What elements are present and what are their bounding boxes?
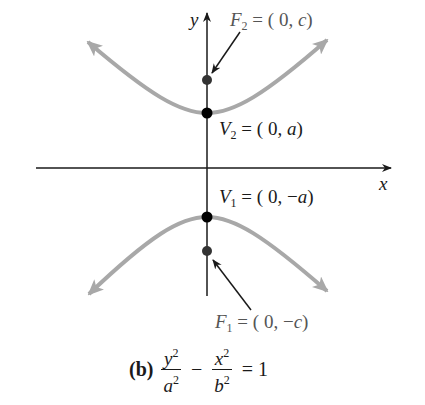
vertex-v1-label: V1 = ( 0, −a) [219,187,313,209]
term2-denominator: b [214,375,224,396]
f1-text: = ( 0, − [233,311,294,332]
fraction-x2-b2: x2 b2 [212,343,232,396]
v2-text: = ( 0, [237,118,287,139]
f1-name: F [215,311,227,332]
upper-branch-left [88,42,207,113]
focus-f2-point [202,75,212,85]
upper-branch-right [207,40,327,113]
v1-text: = ( 0, − [237,186,298,207]
v1-coord: a [298,186,308,207]
term2-den-exp: 2 [224,373,230,387]
minus-sign: − [191,358,202,381]
f2-close: ) [306,9,312,30]
equation-caption: (b) y2 a2 − x2 b2 = 1 [129,344,274,394]
f1-pointer-arrow [213,260,251,310]
part-label: (b) [129,358,153,381]
v1-close: ) [307,186,313,207]
f2-pointer-arrow [212,32,240,73]
lower-branch-right [207,217,327,291]
v2-coord: a [287,118,297,139]
term2-numerator: x [215,348,223,369]
term1-denominator: a [163,375,173,396]
fraction-y2-a2: y2 a2 [161,343,181,396]
f1-coord: c [294,311,302,332]
vertex-v2-label: V2 = ( 0, a) [219,119,303,141]
x-axis-label: x [379,174,387,193]
lower-branch-left [89,217,207,294]
v2-close: ) [296,118,302,139]
equals-one: = 1 [242,358,268,381]
focus-f2-label: F2 = ( 0, c) [230,10,313,32]
vertex-v1-point [202,212,213,223]
term2-num-exp: 2 [223,346,229,360]
f2-text: = ( 0, [248,9,298,30]
term1-den-exp: 2 [173,373,179,387]
v2-name: V [219,118,231,139]
focus-f1-point [202,246,212,256]
f1-close: ) [302,311,308,332]
vertex-v2-point [202,108,213,119]
term1-num-exp: 2 [172,346,178,360]
y-axis-label: y [190,10,198,29]
f2-name: F [230,9,242,30]
v1-name: V [219,186,231,207]
focus-f1-label: F1 = ( 0, −c) [215,312,308,334]
